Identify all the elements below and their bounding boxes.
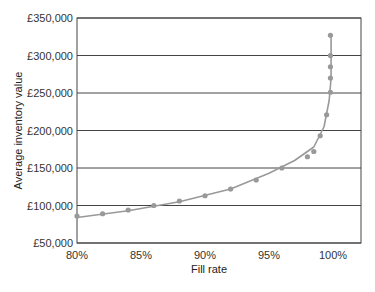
data-point xyxy=(254,177,259,182)
y-tick-label: £250,000 xyxy=(27,87,73,99)
x-tick-label: 80% xyxy=(66,249,88,261)
data-point xyxy=(324,112,329,117)
data-point xyxy=(151,203,156,208)
y-axis-label: Average inventory value xyxy=(12,72,24,190)
data-point xyxy=(228,186,233,191)
data-point xyxy=(328,90,333,95)
fill-rate-chart: £50,000£100,000£150,000£200,000£250,000£… xyxy=(0,0,375,292)
x-axis-label: Fill rate xyxy=(191,263,227,275)
data-point xyxy=(305,154,310,159)
y-tick-label: £300,000 xyxy=(27,50,73,62)
data-point xyxy=(318,133,323,138)
y-tick-label: £150,000 xyxy=(27,162,73,174)
data-point xyxy=(100,211,105,216)
x-tick-label: 90% xyxy=(194,249,216,261)
x-tick-label: 85% xyxy=(130,249,152,261)
data-point xyxy=(126,207,131,212)
x-tick-label: 100% xyxy=(319,249,347,261)
data-point xyxy=(279,165,284,170)
data-point xyxy=(311,149,316,154)
data-point xyxy=(328,75,333,80)
data-point xyxy=(74,213,79,218)
y-tick-label: £350,000 xyxy=(27,12,73,24)
y-tick-label: £200,000 xyxy=(27,125,73,137)
data-point xyxy=(177,198,182,203)
fit-curve xyxy=(77,37,331,218)
data-point xyxy=(202,193,207,198)
y-tick-label: £100,000 xyxy=(27,200,73,212)
y-tick-label: £50,000 xyxy=(33,237,73,249)
x-tick-label: 95% xyxy=(258,249,280,261)
data-point xyxy=(328,33,333,38)
data-point xyxy=(328,53,333,58)
data-point xyxy=(328,64,333,69)
